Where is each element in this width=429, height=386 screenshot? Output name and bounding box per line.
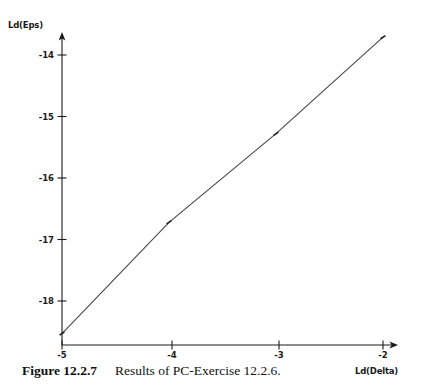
data-series-line [62, 37, 383, 333]
data-point-marker-1 [167, 221, 172, 224]
y-axis [59, 32, 66, 345]
x-tick-label-1: -4 [157, 350, 187, 360]
y-tick-label-1: -15 [20, 112, 54, 122]
x-tick-label-2: -3 [264, 350, 294, 360]
figure-caption: Figure 12.2.7 Results of PC-Exercise 12.… [0, 360, 429, 386]
x-tick-label-3: -2 [368, 350, 398, 360]
x-axis [62, 342, 398, 349]
y-tick-label-2: -16 [20, 173, 54, 183]
data-point-marker-3 [381, 36, 386, 39]
y-tick-label-4: -18 [20, 296, 54, 306]
figure-page: Ld(Eps) -14 -15 -16 -17 -18 -5 -4 -3 -2 … [0, 0, 429, 386]
plot-area: Ld(Eps) -14 -15 -16 -17 -18 -5 -4 -3 -2 [0, 0, 429, 360]
caption-description: Results of PC-Exercise 12.2.6. [115, 363, 281, 379]
y-axis-label: Ld(Eps) [8, 20, 43, 30]
plot-canvas [0, 0, 429, 360]
y-tick-label-0: -14 [20, 50, 54, 60]
x-tick-label-0: -5 [47, 350, 77, 360]
y-tick-label-3: -17 [20, 235, 54, 245]
data-point-markers [60, 36, 386, 336]
caption-figure-number: Figure 12.2.7 [22, 363, 97, 379]
data-point-marker-2 [274, 132, 279, 135]
